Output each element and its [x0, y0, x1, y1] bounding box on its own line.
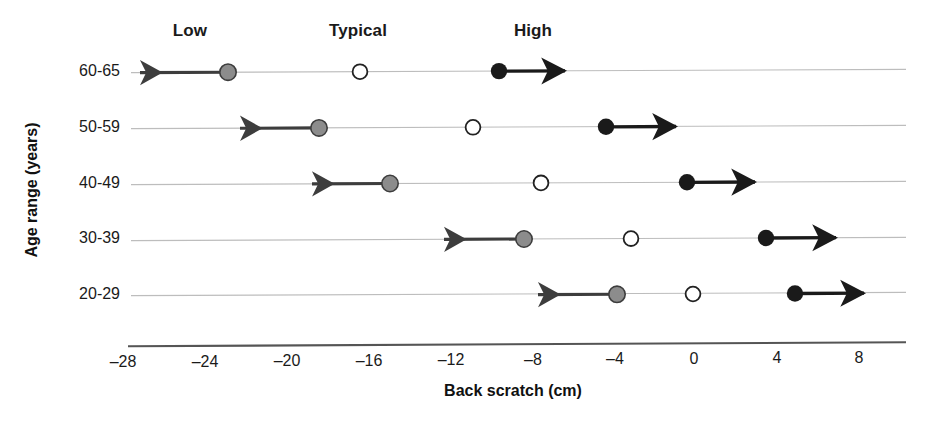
row-40-49 [312, 174, 755, 192]
category-label-40-49: 40-49 [79, 174, 120, 192]
xtick-label-4: 4 [773, 349, 782, 367]
xtick-label-m12: –12 [438, 351, 465, 369]
high-marker [598, 119, 614, 135]
xtick-label-m20: –20 [274, 352, 301, 370]
x-axis-title: Back scratch (cm) [444, 382, 582, 400]
low-marker [220, 64, 236, 80]
high-marker [758, 230, 774, 246]
low-marker [516, 231, 532, 247]
legend-label-high: High [514, 21, 552, 41]
typical-marker [353, 64, 368, 79]
high-marker [787, 285, 803, 301]
typical-marker [624, 231, 639, 246]
row-60-65 [140, 63, 565, 80]
y-axis-title: Age range (years) [23, 122, 41, 257]
typical-marker [686, 287, 701, 302]
typical-marker [466, 120, 481, 135]
back-scratch-range-chart: Low Typical High 60-65 50-59 40-49 30-39… [0, 0, 930, 440]
x-axis-line [128, 342, 906, 346]
high-marker [491, 63, 507, 79]
gridlines [131, 69, 906, 295]
low-marker [311, 120, 327, 136]
xtick-label-m24: –24 [192, 353, 219, 371]
legend-label-low: Low [173, 21, 207, 41]
category-label-30-39: 30-39 [79, 229, 120, 247]
legend-label-typical: Typical [329, 21, 387, 41]
category-label-20-29: 20-29 [79, 285, 120, 303]
low-marker [609, 286, 625, 302]
xtick-label-8: 8 [855, 349, 864, 367]
category-label-50-59: 50-59 [79, 118, 120, 136]
xtick-label-0: 0 [690, 350, 699, 368]
xtick-label-m16: –16 [356, 352, 383, 370]
category-label-60-65: 60-65 [79, 62, 120, 80]
xtick-label-m28: –28 [110, 353, 137, 371]
chart-canvas [0, 0, 930, 440]
typical-marker [534, 176, 549, 191]
xtick-label-m8: –8 [524, 351, 542, 369]
high-marker [679, 174, 695, 190]
xtick-label-m4: –4 [606, 350, 624, 368]
low-marker [382, 175, 398, 191]
row-20-29 [538, 285, 864, 302]
